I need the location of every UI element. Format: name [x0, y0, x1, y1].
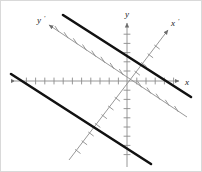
rotated-axes-figure: x y: [1, 1, 202, 172]
x-axis-label: x: [184, 77, 189, 87]
y-prime-axis-label: y: [36, 15, 41, 25]
x-prime-axis-label: x: [170, 18, 175, 28]
plotted-lines-group: [11, 15, 191, 164]
y-axis-label: y: [124, 9, 129, 19]
y-prime-axis-line: [49, 25, 187, 117]
x-prime-axis-ticks: [75, 45, 160, 154]
y-prime-axis-group: y ′: [36, 14, 187, 117]
x-prime-axis-group: x ′: [69, 17, 180, 160]
plotted-line-lower: [11, 74, 151, 164]
y-prime-axis-prime-mark: ′: [44, 14, 46, 22]
y-axis-group: y: [124, 9, 131, 167]
x-prime-axis-prime-mark: ′: [178, 17, 180, 25]
figure-container: x y: [0, 0, 202, 172]
